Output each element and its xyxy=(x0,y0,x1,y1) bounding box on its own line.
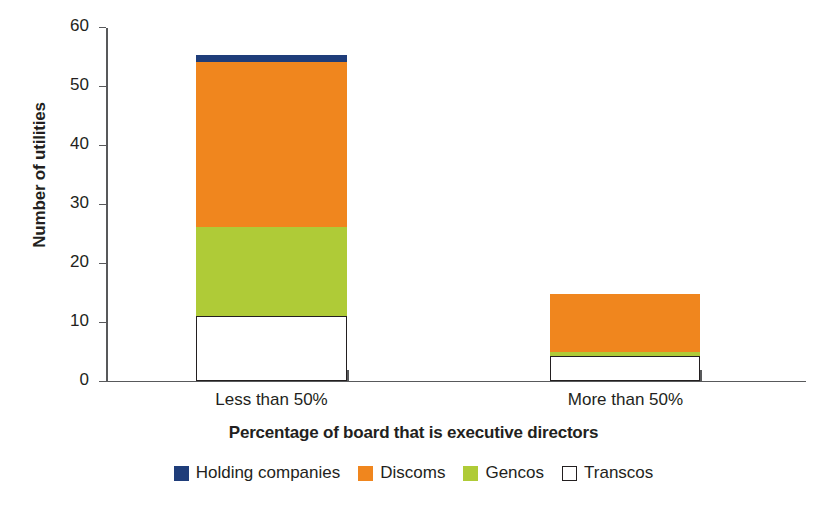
chart-legend: Holding companiesDiscomsGencosTranscos xyxy=(0,463,827,483)
y-axis-tick: 40 xyxy=(99,145,106,147)
legend-label: Holding companies xyxy=(196,463,341,483)
legend-item-holding-companies[interactable]: Holding companies xyxy=(174,463,341,483)
bar-segment-discoms[interactable] xyxy=(196,62,347,227)
y-axis-tick-label: 50 xyxy=(70,75,89,95)
y-axis-tick: 20 xyxy=(99,263,106,265)
bar-segment-gencos[interactable] xyxy=(550,352,700,356)
x-axis-category-label: More than 50% xyxy=(526,390,726,410)
legend-label: Gencos xyxy=(485,463,544,483)
legend-item-transcos[interactable]: Transcos xyxy=(562,463,653,483)
y-axis-line xyxy=(106,28,108,382)
legend-swatch-icon xyxy=(562,466,577,481)
bar-segment-transcos[interactable] xyxy=(196,316,347,381)
legend-swatch-icon xyxy=(174,466,189,481)
plot-area: 0102030405060 xyxy=(106,28,806,382)
stacked-bar-chart: Number of utilities 0102030405060 Less t… xyxy=(0,0,827,514)
y-axis-tick-label: 20 xyxy=(70,252,89,272)
bar-segment-gencos[interactable] xyxy=(196,227,347,316)
legend-label: Discoms xyxy=(380,463,445,483)
y-axis-tick-label: 10 xyxy=(70,311,89,331)
x-axis-tick xyxy=(347,370,349,382)
y-axis-tick-label: 0 xyxy=(80,370,89,390)
y-axis-tick: 50 xyxy=(99,86,106,88)
x-axis-title: Percentage of board that is executive di… xyxy=(0,423,827,443)
y-axis-tick: 30 xyxy=(99,204,106,206)
x-axis-tick xyxy=(700,370,702,382)
bar-segment-transcos[interactable] xyxy=(550,356,700,381)
legend-swatch-icon xyxy=(358,466,373,481)
bar-segment-discoms[interactable] xyxy=(550,294,700,352)
bar-less-than-50[interactable] xyxy=(196,55,347,381)
y-axis-tick-label: 40 xyxy=(70,134,89,154)
x-axis-category-label: Less than 50% xyxy=(172,390,372,410)
y-axis-tick-label: 60 xyxy=(70,16,89,36)
y-axis-tick: 10 xyxy=(99,322,106,324)
legend-label: Transcos xyxy=(584,463,653,483)
y-axis-tick-label: 30 xyxy=(70,193,89,213)
legend-swatch-icon xyxy=(463,466,478,481)
legend-item-discoms[interactable]: Discoms xyxy=(358,463,445,483)
y-axis-title: Number of utilities xyxy=(30,55,50,295)
bar-more-than-50[interactable] xyxy=(550,294,700,381)
y-axis-tick: 0 xyxy=(99,381,106,383)
bar-segment-holding companies[interactable] xyxy=(196,55,347,62)
y-axis-tick: 60 xyxy=(99,27,106,29)
legend-item-gencos[interactable]: Gencos xyxy=(463,463,544,483)
